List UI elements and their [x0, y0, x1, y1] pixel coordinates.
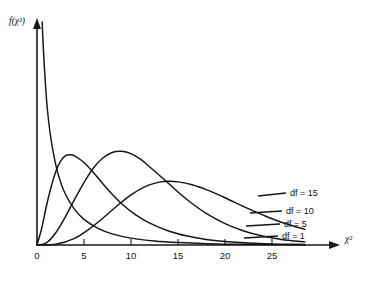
series-label-df1: df = 1	[282, 231, 305, 241]
chi-square-distribution-chart: 0 5 10 15 20 25 f(χ²) χ² df = 15 df = 10…	[0, 0, 375, 281]
x-tick-label-10: 10	[126, 250, 137, 261]
chart-canvas: 0 5 10 15 20 25 f(χ²) χ² df = 15 df = 10…	[0, 0, 375, 281]
x-tick-label-15: 15	[173, 250, 184, 261]
series-label-df10: df = 10	[286, 206, 314, 216]
chart-background	[0, 0, 375, 281]
series-label-df15: df = 15	[290, 188, 318, 198]
x-tick-label-5: 5	[81, 250, 86, 261]
x-tick-label-20: 20	[220, 250, 231, 261]
x-tick-label-25: 25	[267, 250, 278, 261]
y-axis-title: f(χ²)	[9, 16, 25, 27]
x-axis-title: χ²	[344, 234, 352, 244]
x-tick-label-0: 0	[34, 250, 39, 261]
series-label-df5: df = 5	[284, 219, 307, 229]
